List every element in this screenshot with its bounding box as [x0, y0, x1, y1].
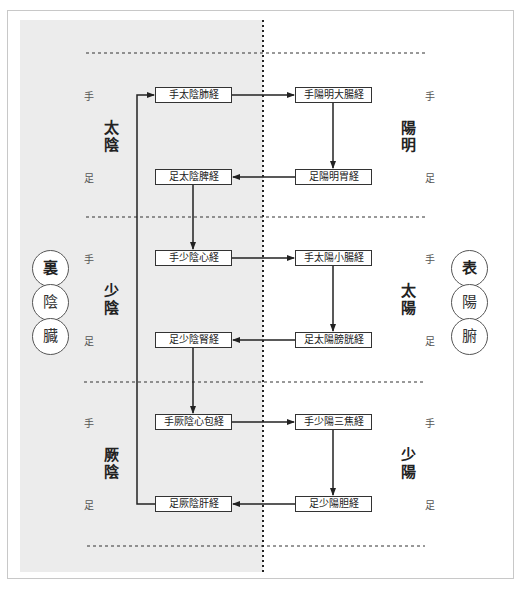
foot-label: 足 [425, 497, 435, 512]
group-char: 陰 [102, 300, 120, 317]
group-char: 太 [102, 120, 120, 137]
meridian-box-large-intestine: 手陽明大腸経 [295, 87, 372, 103]
meridian-box-liver: 足厥陰肝経 [155, 496, 232, 512]
hand-label: 手 [84, 88, 94, 103]
foot-label: 足 [84, 497, 94, 512]
group-char: 陽 [399, 464, 417, 481]
hand-label: 手 [425, 415, 435, 430]
meridian-box-gallbladder: 足少陽胆経 [295, 496, 372, 512]
circle-yin: 陰 [32, 284, 69, 321]
foot-label: 足 [425, 170, 435, 185]
meridian-box-triple-burner: 手少陽三焦経 [295, 414, 372, 430]
group-label-taiyang: 太 陽 [399, 283, 417, 317]
meridian-box-bladder: 足太陽膀胱経 [295, 332, 372, 348]
group-char: 少 [102, 283, 120, 300]
hand-label: 手 [425, 88, 435, 103]
meridian-box-pericardium: 手厥陰心包経 [155, 414, 232, 430]
meridian-box-small-intestine: 手太陽小腸経 [295, 250, 372, 266]
group-label-yangming: 陽 明 [399, 120, 417, 154]
circle-fu: 腑 [451, 318, 488, 355]
group-label-shaoyang: 少 陽 [399, 447, 417, 481]
foot-label: 足 [84, 170, 94, 185]
hand-label: 手 [425, 251, 435, 266]
foot-label: 足 [425, 333, 435, 348]
hand-label: 手 [84, 415, 94, 430]
group-label-shaoyin: 少 陰 [102, 283, 120, 317]
group-char: 陽 [399, 120, 417, 137]
foot-label: 足 [84, 333, 94, 348]
circle-zou: 臓 [32, 318, 69, 355]
group-char: 少 [399, 447, 417, 464]
group-char: 太 [399, 283, 417, 300]
connector-lines [0, 0, 522, 597]
circle-omote: 表 [451, 250, 488, 287]
group-label-taiyin: 太 陰 [102, 120, 120, 154]
group-char: 明 [399, 137, 417, 154]
group-separators [84, 53, 425, 546]
meridian-box-heart: 手少陰心経 [155, 250, 232, 266]
meridian-box-spleen: 足太陰脾経 [155, 169, 232, 185]
group-char: 陽 [399, 300, 417, 317]
circle-yang: 陽 [451, 284, 488, 321]
hand-label: 手 [84, 251, 94, 266]
group-char: 陰 [102, 137, 120, 154]
group-char: 厥 [102, 447, 120, 464]
group-char: 陰 [102, 464, 120, 481]
group-label-jueyin: 厥 陰 [102, 447, 120, 481]
circle-ura: 裏 [32, 250, 69, 287]
meridian-box-kidney: 足少陰腎経 [155, 332, 232, 348]
meridian-box-stomach: 足陽明胃経 [295, 169, 372, 185]
meridian-box-lung: 手太陰肺経 [155, 87, 232, 103]
